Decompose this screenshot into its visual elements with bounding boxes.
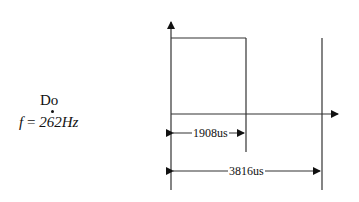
half-period-label: 1908us xyxy=(192,127,229,139)
square-wave-diagram xyxy=(0,0,359,202)
period-label: 3816us xyxy=(228,165,265,177)
